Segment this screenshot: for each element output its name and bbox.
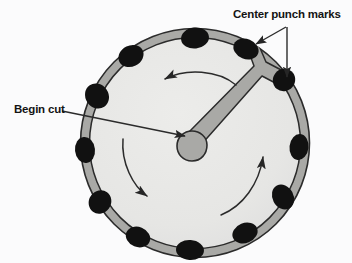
center-punch-leader-diagonal	[256, 27, 286, 44]
begin-cut-label: Begin cut	[14, 104, 65, 116]
cut-disc-diagram	[0, 0, 352, 263]
center-punch-marks-label: Center punch marks	[233, 9, 341, 21]
figure-canvas: Center punch marks Begin cut	[0, 0, 352, 263]
